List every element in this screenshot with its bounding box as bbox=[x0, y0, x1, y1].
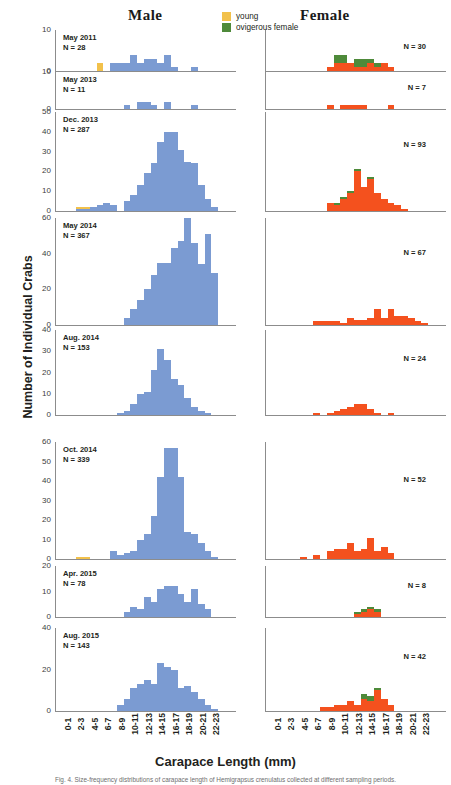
histogram-bin bbox=[198, 330, 205, 415]
x-tick: 18-19 bbox=[178, 710, 192, 758]
histogram-bin bbox=[124, 112, 131, 211]
bar-segment-female bbox=[340, 409, 347, 415]
y-tick-label: 40 bbox=[25, 624, 51, 632]
histogram-bin bbox=[327, 112, 334, 211]
histogram-bin bbox=[198, 72, 205, 109]
x-tick: 6-7 bbox=[97, 710, 111, 758]
histogram-bin bbox=[381, 330, 388, 415]
histogram-bin bbox=[320, 566, 327, 617]
histogram-bin bbox=[171, 30, 178, 71]
bar-segment-male bbox=[164, 55, 171, 71]
bar-segment-female bbox=[313, 555, 320, 559]
bar-segment-female bbox=[374, 67, 381, 71]
histogram-bin bbox=[313, 112, 320, 211]
histogram-bin bbox=[313, 30, 320, 71]
bar-segment-female bbox=[367, 609, 374, 617]
bar-segment-female bbox=[354, 105, 361, 109]
histogram-bars bbox=[266, 442, 428, 559]
histogram-bin bbox=[374, 566, 381, 617]
bar-segment-male bbox=[205, 199, 212, 211]
panel-male: May 2011 N = 28 bbox=[55, 30, 218, 72]
histogram-bin bbox=[327, 218, 334, 325]
chart-row-aug-2015: Aug. 2015 N = 143N = 4202040 bbox=[0, 628, 451, 712]
bar-segment-female bbox=[354, 320, 361, 325]
histogram-bin bbox=[408, 442, 415, 559]
histogram-bin bbox=[381, 218, 388, 325]
histogram-bin bbox=[164, 30, 171, 71]
bar-segment-male bbox=[157, 142, 164, 211]
panel-period-and-n: Apr. 2015 N = 78 bbox=[63, 569, 97, 590]
bar-segment-female bbox=[388, 67, 395, 71]
bar-segment-male bbox=[184, 532, 191, 559]
histogram-bin bbox=[144, 330, 151, 415]
bar-segment-male bbox=[151, 163, 158, 211]
panel-period-and-n: Dec. 2013 N = 287 bbox=[63, 115, 98, 136]
bar-segment-female bbox=[340, 323, 347, 325]
histogram-bin bbox=[408, 566, 415, 617]
bar-segment-female bbox=[334, 411, 341, 415]
chart-row-may-2011: May 2011 N = 28N = 30010 bbox=[0, 30, 451, 72]
histogram-bin bbox=[361, 218, 368, 325]
bar-segment-ovigerous bbox=[340, 55, 347, 63]
histogram-bin bbox=[164, 566, 171, 617]
histogram-bin bbox=[198, 218, 205, 325]
x-tick: 6-7 bbox=[307, 710, 321, 758]
bar-segment-male bbox=[76, 209, 83, 211]
histogram-bin bbox=[300, 112, 307, 211]
histogram-bin bbox=[124, 330, 131, 415]
panel-male: Aug. 2014 N = 153 bbox=[55, 330, 218, 416]
histogram-bin bbox=[361, 330, 368, 415]
bar-segment-male bbox=[164, 360, 171, 415]
histogram-bin bbox=[300, 30, 307, 71]
histogram-bin bbox=[394, 566, 401, 617]
histogram-bin bbox=[367, 330, 374, 415]
panel-period-and-n: Oct. 2014 N = 339 bbox=[63, 445, 97, 466]
histogram-bin bbox=[354, 72, 361, 109]
x-tick: 0-1 bbox=[266, 710, 280, 758]
histogram-bin bbox=[381, 628, 388, 711]
histogram-bin bbox=[293, 112, 300, 211]
bar-segment-male bbox=[137, 540, 144, 560]
histogram-bin bbox=[307, 442, 314, 559]
histogram-bin bbox=[388, 218, 395, 325]
histogram-bin bbox=[110, 330, 117, 415]
histogram-bin bbox=[374, 218, 381, 325]
histogram-bin bbox=[191, 442, 198, 559]
histogram-bin bbox=[280, 628, 287, 711]
bar-segment-female bbox=[388, 553, 395, 559]
histogram-bin bbox=[184, 628, 191, 711]
bar-segment-female bbox=[388, 203, 395, 211]
histogram-bin bbox=[124, 628, 131, 711]
y-tick-label: 20 bbox=[25, 562, 51, 570]
histogram-bin bbox=[415, 330, 422, 415]
histogram-bin bbox=[381, 442, 388, 559]
histogram-bars bbox=[266, 566, 428, 617]
histogram-bin bbox=[191, 628, 198, 711]
y-tick-label: 40 bbox=[25, 250, 51, 258]
bar-segment-male bbox=[110, 551, 117, 559]
bar-segment-male bbox=[205, 234, 212, 325]
histogram-bin bbox=[137, 72, 144, 109]
histogram-bin bbox=[97, 30, 104, 71]
x-tick: 4-5 bbox=[83, 710, 97, 758]
panel-male: May 2013 N = 11 bbox=[55, 72, 218, 110]
y-tick-label: 50 bbox=[25, 458, 51, 466]
histogram-bin bbox=[293, 566, 300, 617]
bar-segment-female bbox=[408, 318, 415, 325]
histogram-bin bbox=[280, 330, 287, 415]
bar-segment-male bbox=[124, 411, 131, 415]
histogram-bin bbox=[211, 628, 218, 711]
histogram-bin bbox=[367, 112, 374, 211]
bar-segment-female bbox=[381, 547, 388, 559]
bar-segment-female bbox=[354, 551, 361, 559]
histogram-bin bbox=[394, 218, 401, 325]
histogram-bin bbox=[381, 72, 388, 109]
histogram-bin bbox=[286, 218, 293, 325]
histogram-bin bbox=[313, 218, 320, 325]
histogram-bin bbox=[184, 218, 191, 325]
histogram-bin bbox=[205, 218, 212, 325]
histogram-bin bbox=[130, 72, 137, 109]
histogram-bin bbox=[144, 628, 151, 711]
histogram-bin bbox=[273, 442, 280, 559]
histogram-bin bbox=[144, 112, 151, 211]
